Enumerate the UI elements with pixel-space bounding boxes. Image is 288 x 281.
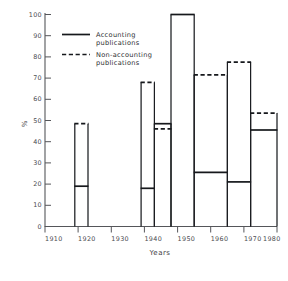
y-tick-90: 90 xyxy=(33,32,42,40)
x-tick-1930: 1930 xyxy=(111,235,129,243)
x-tick-1960: 1960 xyxy=(211,235,229,243)
legend-label-accounting-line1: Accounting xyxy=(96,31,136,39)
y-axis-title: % xyxy=(21,120,29,127)
chart-figure: 0 10 20 30 40 50 60 70 80 90 100 1910 19… xyxy=(0,0,288,281)
y-tick-60: 60 xyxy=(33,95,42,103)
x-tick-1980: 1980 xyxy=(263,235,281,243)
legend-label-nonaccounting-line1: Non-accounting xyxy=(96,51,152,59)
x-tick-1970: 1970 xyxy=(244,235,262,243)
y-tick-80: 80 xyxy=(33,53,42,61)
legend-label-accounting-line2: publications xyxy=(96,39,140,47)
y-tick-50: 50 xyxy=(33,117,42,125)
x-tick-1950: 1950 xyxy=(178,235,196,243)
y-tick-20: 20 xyxy=(33,180,42,188)
y-tick-100: 100 xyxy=(29,11,42,19)
x-tick-1920: 1920 xyxy=(78,235,96,243)
publications-percentage-chart: 0 10 20 30 40 50 60 70 80 90 100 1910 19… xyxy=(0,0,288,281)
legend-label-nonaccounting-line2: publications xyxy=(96,59,140,67)
x-tick-1940: 1940 xyxy=(144,235,162,243)
y-tick-40: 40 xyxy=(33,138,42,146)
x-tick-1910: 1910 xyxy=(45,235,63,243)
y-tick-0: 0 xyxy=(38,223,42,231)
y-tick-10: 10 xyxy=(33,201,42,209)
y-tick-70: 70 xyxy=(33,74,42,82)
x-axis-title: Years xyxy=(149,249,171,257)
y-tick-30: 30 xyxy=(33,159,42,167)
